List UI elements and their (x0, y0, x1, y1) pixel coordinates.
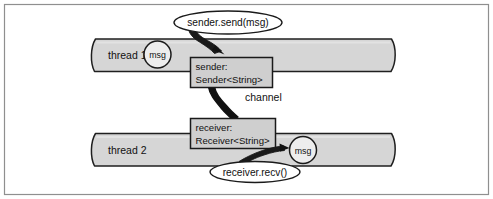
recv-callout-label: receiver.recv() (223, 167, 288, 178)
sender-object-box: sender: Sender<String> (191, 58, 273, 88)
thread-1-label: thread 1 (108, 49, 147, 61)
sender-type-line: Sender<String> (196, 74, 264, 85)
msg-label-thread-1: msg (149, 50, 166, 60)
msg-circle-thread-1: msg (144, 41, 171, 68)
thread-2-label: thread 2 (108, 144, 147, 156)
send-callout-label: sender.send(msg) (187, 17, 269, 28)
sender-name-line: sender: (196, 61, 228, 72)
receiver-name-line: receiver: (196, 122, 233, 133)
receiver-object-box: receiver: Receiver<String> (191, 119, 276, 149)
figure-container: thread 1 thread 2 channel sender: Sender… (0, 0, 493, 199)
msg-label-thread-2: msg (295, 146, 312, 156)
receiver-type-line: Receiver<String> (196, 135, 271, 146)
msg-circle-thread-2: msg (290, 137, 317, 164)
channel-label: channel (245, 91, 282, 103)
channel-diagram: thread 1 thread 2 channel sender: Sender… (0, 0, 493, 199)
